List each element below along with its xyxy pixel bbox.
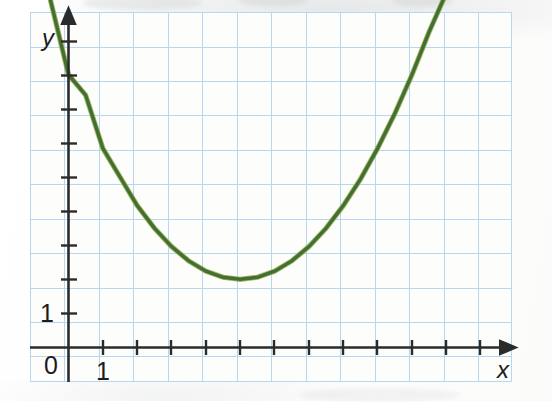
- y-axis-label: y: [40, 24, 56, 51]
- x-axis-label: x: [496, 356, 510, 383]
- x-tick-label-1: 1: [96, 357, 110, 385]
- origin-label: 0: [44, 351, 58, 379]
- y-tick-label-1: 1: [40, 299, 54, 327]
